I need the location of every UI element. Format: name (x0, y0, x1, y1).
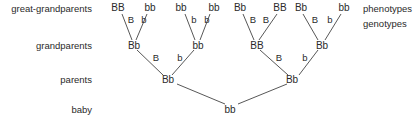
great-grandparent-4: bb (208, 2, 219, 13)
great-grandparent-5: Bb (234, 2, 246, 13)
row-label-grandparents: grandparents (0, 40, 92, 51)
allele-label: B (128, 14, 134, 25)
great-grandparent-8: bb (338, 2, 349, 13)
allele-label: b (302, 52, 307, 63)
great-grandparent-1: BB (111, 2, 124, 13)
allele-label: b (327, 14, 332, 25)
parent-2: Bb (286, 74, 298, 85)
parent-1: Bb (162, 74, 174, 85)
allele-label: b (191, 14, 196, 25)
allele-label: B (263, 14, 269, 25)
row-label-great-grandparents: great-grandparents (0, 3, 92, 14)
great-grandparent-3: bb (175, 2, 186, 13)
legend-phenotypes: phenotypes (363, 3, 412, 14)
great-grandparent-2: bb (144, 2, 155, 13)
great-grandparent-7: Bb (295, 2, 307, 13)
grandparent-1: Bb (128, 40, 140, 51)
allele-label: b (204, 14, 209, 25)
grandparent-4: Bb (316, 40, 328, 51)
grandparent-3: BB (250, 40, 263, 51)
allele-label: b (177, 52, 182, 63)
allele-label: b (141, 14, 146, 25)
row-label-baby: baby (0, 104, 92, 115)
row-label-parents: parents (0, 74, 92, 85)
grandparent-2: bb (192, 40, 203, 51)
allele-label: B (276, 52, 282, 63)
great-grandparent-6: BB (273, 2, 286, 13)
allele-label: B (312, 14, 318, 25)
allele-label: B (153, 52, 159, 63)
legend-genotypes: genotypes (363, 18, 407, 29)
allele-label: B (250, 14, 256, 25)
baby: bb (224, 104, 235, 115)
